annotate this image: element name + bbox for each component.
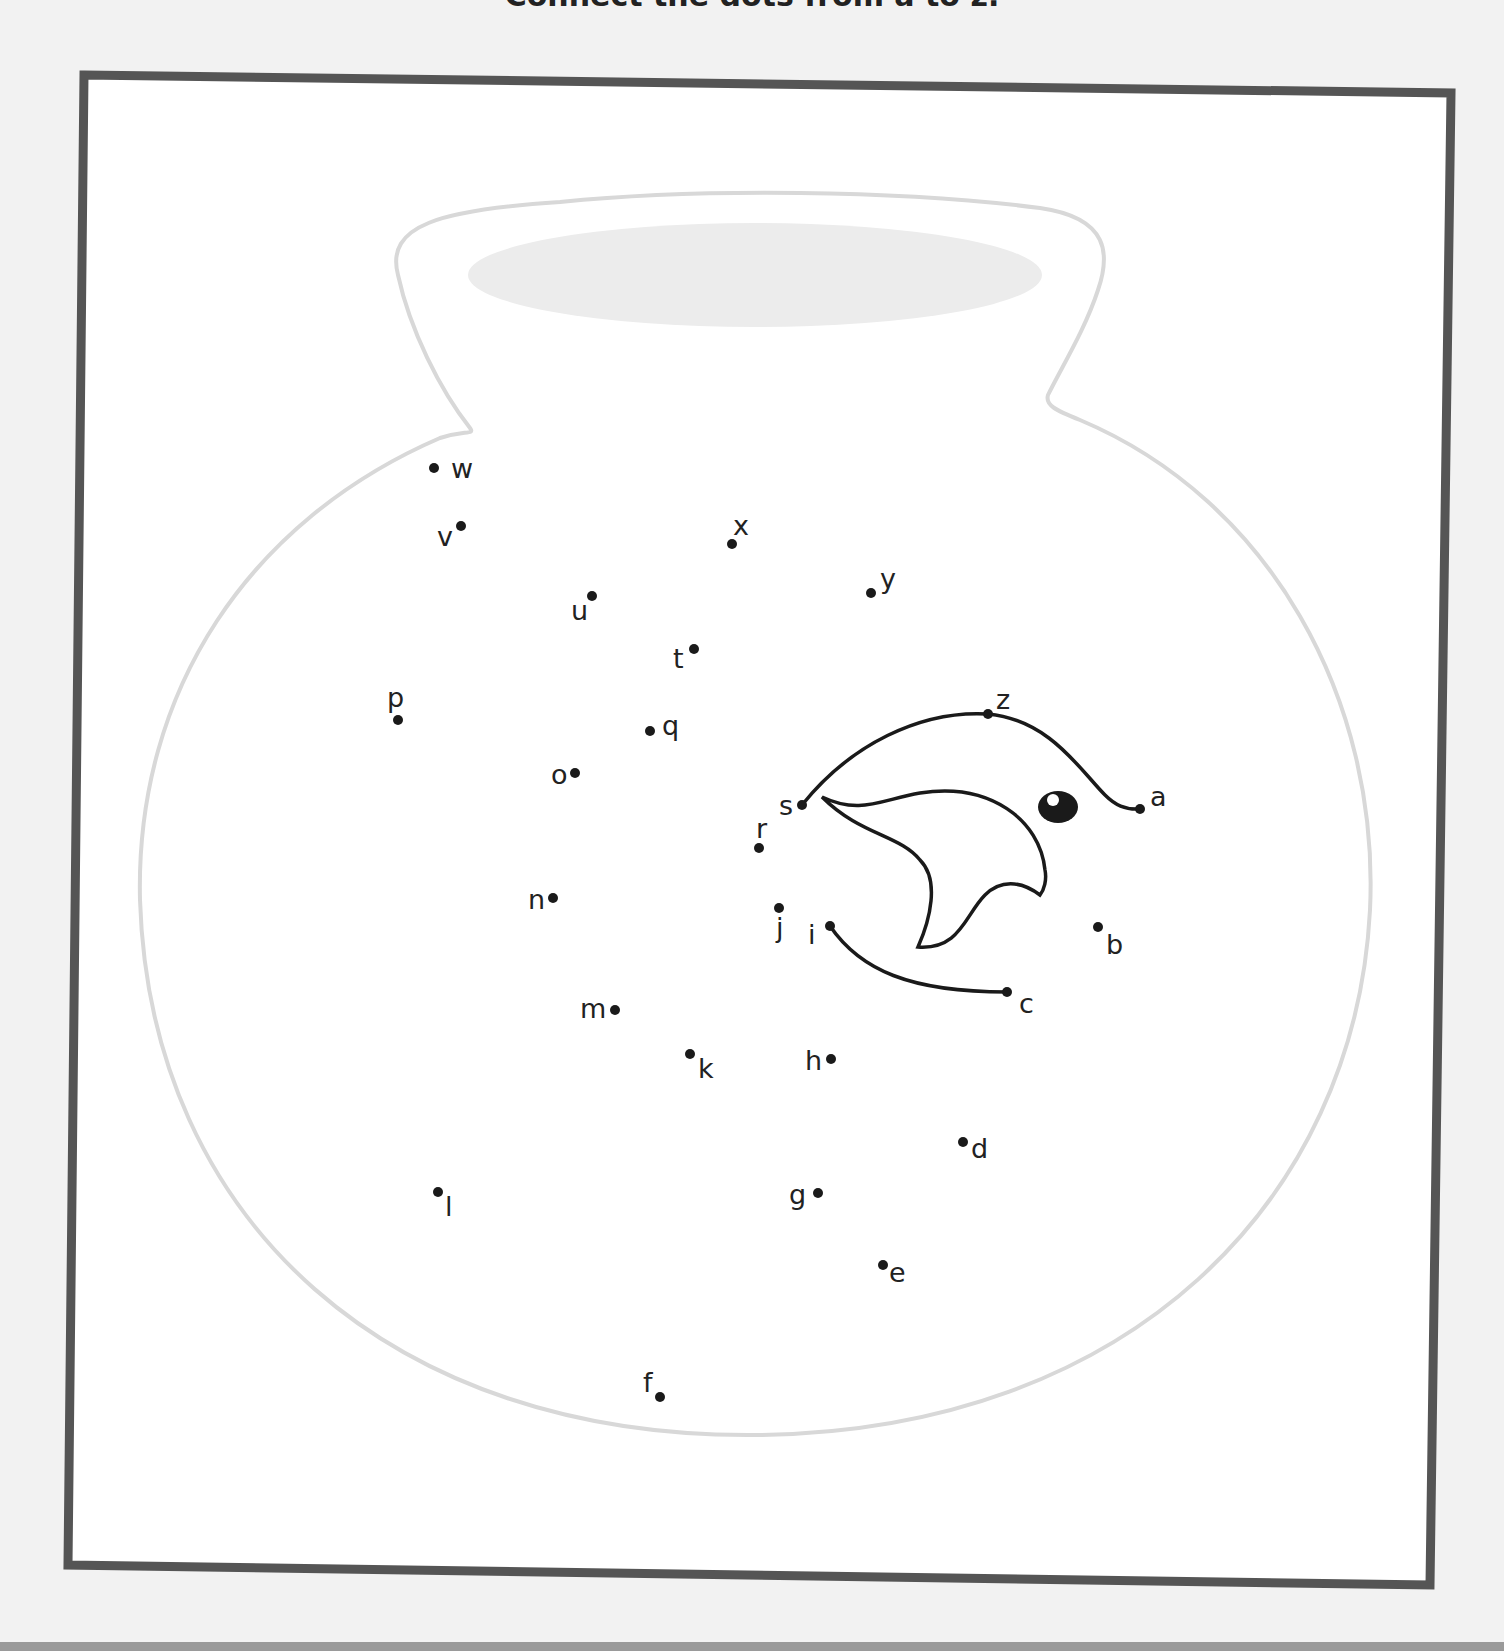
dot-label: b [1106, 929, 1123, 960]
dot-marker-icon [393, 715, 403, 725]
dot-marker-icon [689, 644, 699, 654]
fish-eye-icon [1038, 791, 1078, 823]
dot-label: q [662, 710, 679, 741]
dot-label: l [445, 1191, 453, 1222]
dot-label: j [775, 912, 784, 943]
dot-marker-icon [570, 768, 580, 778]
dot-label: u [571, 595, 588, 626]
dot-marker-icon [587, 591, 597, 601]
dot-marker-icon [754, 843, 764, 853]
dot-marker-icon [645, 726, 655, 736]
dot-marker-icon [548, 893, 558, 903]
dot-marker-icon [456, 521, 466, 531]
dot-marker-icon [983, 709, 993, 719]
dot-label: n [528, 884, 545, 915]
dot-marker-icon [433, 1187, 443, 1197]
dot-label: t [673, 643, 684, 674]
dot-label: m [580, 993, 606, 1024]
dot-label: z [996, 684, 1010, 715]
dot-label: y [880, 563, 896, 594]
dot-label: r [756, 813, 768, 844]
dot-marker-icon [797, 800, 807, 810]
scan-edge [0, 1642, 1504, 1651]
dot-marker-icon [813, 1188, 823, 1198]
dot-marker-icon [1002, 987, 1012, 997]
dot-label: h [805, 1045, 822, 1076]
dot-label: i [808, 919, 816, 950]
dot-label: a [1150, 781, 1167, 812]
dot-label: k [698, 1053, 714, 1084]
dot-label: w [451, 453, 473, 484]
dot-label: d [971, 1133, 988, 1164]
dot-label: f [643, 1367, 654, 1398]
dot-marker-icon [1093, 922, 1103, 932]
worksheet-canvas: abcdefghijklmnopqrstuvwxyz [0, 0, 1504, 1651]
dot-label: s [779, 790, 793, 821]
dot-marker-icon [825, 921, 835, 931]
dot-j: j [774, 903, 784, 943]
dot-marker-icon [655, 1392, 665, 1402]
dot-label: o [551, 759, 568, 790]
dot-marker-icon [878, 1260, 888, 1270]
dot-marker-icon [826, 1054, 836, 1064]
dot-marker-icon [1135, 804, 1145, 814]
water-surface [468, 223, 1042, 327]
dot-label: e [889, 1257, 906, 1288]
dot-marker-icon [685, 1049, 695, 1059]
dot-marker-icon [958, 1137, 968, 1147]
dot-label: p [387, 682, 404, 713]
dot-marker-icon [610, 1005, 620, 1015]
dot-label: c [1019, 988, 1034, 1019]
dot-marker-icon [866, 588, 876, 598]
dot-marker-icon [429, 463, 439, 473]
dot-label: g [789, 1179, 806, 1210]
dot-label: x [733, 510, 749, 541]
dot-label: v [437, 521, 453, 552]
